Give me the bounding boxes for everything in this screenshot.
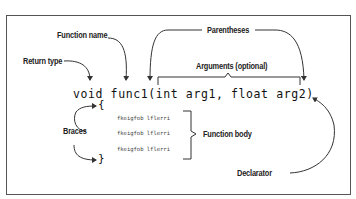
- braces-bottom-arrow: [74, 145, 96, 160]
- label-function-body: Function body: [203, 129, 252, 139]
- label-parentheses: Parentheses: [207, 25, 249, 35]
- label-declarator: Declarator: [237, 168, 272, 178]
- declarator-arrow: [290, 98, 334, 173]
- label-return-type: Return type: [23, 56, 62, 66]
- function-declaration-code: void func1(int arg1, float arg2): [73, 87, 314, 101]
- close-brace: }: [98, 152, 105, 165]
- label-arguments: Arguments (optional): [196, 61, 267, 71]
- function-name-arrow: [108, 38, 126, 80]
- arguments-bracket: [158, 73, 300, 85]
- return-type-arrow: [64, 61, 90, 80]
- body-line-3: fkeigfob lflerri: [117, 146, 170, 152]
- parentheses-right-arrow: [255, 30, 304, 80]
- body-line-2: fkeigfob lflerri: [117, 130, 170, 136]
- open-brace: {: [98, 98, 105, 111]
- label-function-name: Function name: [57, 30, 107, 40]
- label-braces: Braces: [63, 126, 87, 136]
- body-line-1: fkeigfob lflerri: [117, 115, 170, 121]
- parentheses-left-arrow: [150, 30, 202, 80]
- function-body-bracket: [183, 111, 196, 159]
